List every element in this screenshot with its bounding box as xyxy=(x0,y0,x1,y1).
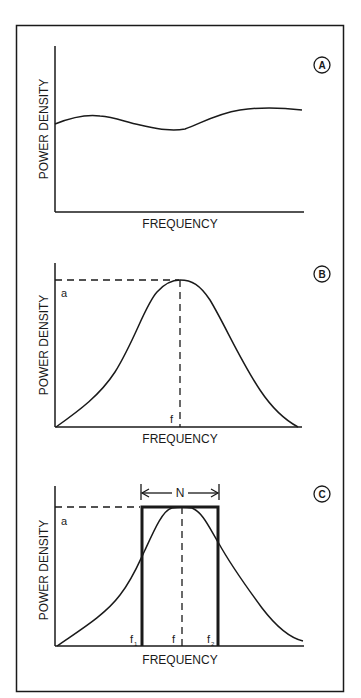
spectrum-diagram: A POWER DENSITY FREQUENCY B a f POWER DE… xyxy=(0,0,361,698)
panel-a: A POWER DENSITY FREQUENCY xyxy=(37,46,330,231)
f1-label: f 1 xyxy=(130,633,138,647)
x-axis-label: FREQUENCY xyxy=(142,217,217,231)
bandwidth-arrow: N xyxy=(141,484,219,500)
panel-badge: A xyxy=(314,57,330,73)
spectrum-curve xyxy=(56,280,298,427)
f2-label: f 2 xyxy=(207,633,215,647)
panel-b: B a f POWER DENSITY FREQUENCY xyxy=(37,263,330,446)
spectrum-curve xyxy=(55,108,302,130)
spectrum-curve xyxy=(57,507,303,646)
panel-c: N C a f 1 f f 2 POWER DENSITY FREQUENCY xyxy=(37,484,330,667)
peak-amplitude-label: a xyxy=(61,515,68,527)
center-frequency-label: f xyxy=(170,413,174,425)
badge-label: B xyxy=(318,269,325,280)
panel-badge: B xyxy=(314,266,330,282)
panel-badge: C xyxy=(314,486,330,502)
peak-amplitude-label: a xyxy=(61,287,68,299)
y-axis-label: POWER DENSITY xyxy=(37,520,51,621)
center-frequency-label: f xyxy=(172,633,176,645)
equivalent-bandwidth-rectangle xyxy=(142,507,218,646)
x-axis-label: FREQUENCY xyxy=(142,653,217,667)
badge-label: A xyxy=(318,60,325,71)
bandwidth-label: N xyxy=(176,486,185,500)
y-axis-label: POWER DENSITY xyxy=(37,79,51,180)
x-axis-label: FREQUENCY xyxy=(142,432,217,446)
badge-label: C xyxy=(318,489,325,500)
y-axis-label: POWER DENSITY xyxy=(37,295,51,396)
